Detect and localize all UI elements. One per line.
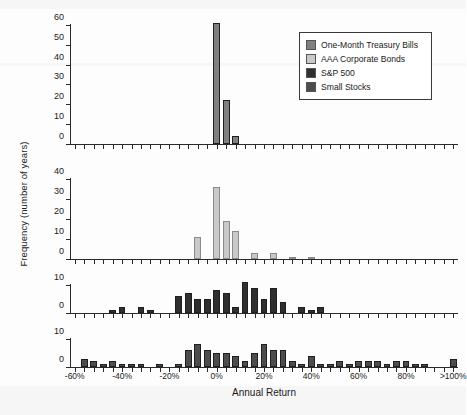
x-tick [330, 145, 331, 149]
x-tick [264, 260, 265, 264]
histogram-bar [251, 288, 258, 314]
histogram-bar [270, 288, 277, 314]
y-tick-label: 10 [54, 112, 64, 121]
x-tick [103, 260, 104, 264]
x-tick [311, 314, 312, 318]
histogram-bar [251, 353, 258, 367]
x-tick-label: 0% [211, 371, 223, 381]
x-tick [453, 260, 454, 264]
x-tick [150, 260, 151, 264]
x-tick [94, 260, 95, 264]
y-tick [66, 84, 70, 85]
legend-label: Small Stocks [321, 83, 371, 92]
x-tick [245, 260, 246, 264]
x-tick [150, 145, 151, 149]
y-tick-label: 0 [59, 247, 64, 256]
x-tick [378, 260, 379, 264]
histogram-bar [327, 364, 334, 367]
x-tick [425, 260, 426, 264]
histogram-bar [175, 364, 182, 367]
legend-swatch-icon [306, 68, 316, 78]
x-tick [349, 314, 350, 318]
legend-swatch-icon [306, 40, 316, 50]
x-tick [179, 260, 180, 264]
x-tick [113, 260, 114, 264]
histogram-bar [90, 361, 97, 367]
x-tick [103, 145, 104, 149]
histogram-bar [213, 187, 220, 259]
x-tick-label: -40% [112, 371, 132, 381]
y-tick-label: 10 [54, 227, 64, 236]
scan-band [0, 0, 466, 9]
histogram-bar [280, 350, 287, 367]
x-tick [321, 145, 322, 149]
histogram-bar [223, 353, 230, 367]
histogram-bar [317, 364, 324, 367]
x-tick [255, 314, 256, 318]
histogram-bar [308, 257, 315, 259]
x-tick [84, 260, 85, 264]
x-tick [226, 314, 227, 318]
legend-swatch-icon [306, 82, 316, 92]
x-tick [236, 260, 237, 264]
histogram-bar [346, 364, 353, 367]
histogram-bar [223, 293, 230, 313]
x-tick [283, 314, 284, 318]
histogram-bar [355, 361, 362, 367]
x-tick [160, 260, 161, 264]
x-tick [255, 260, 256, 264]
legend-item-one-month-treasury-bills: One-Month Treasury Bills [306, 38, 425, 52]
histogram-bar [421, 364, 428, 367]
histogram-bar [119, 364, 126, 367]
x-tick [141, 314, 142, 318]
histogram-bar [194, 344, 201, 367]
x-tick [245, 145, 246, 149]
bar-group [70, 333, 458, 367]
y-tick [66, 339, 70, 340]
y-tick [66, 25, 70, 26]
x-tick [340, 145, 341, 149]
y-tick-label: 20 [54, 92, 64, 101]
histogram-bar [336, 361, 343, 367]
histogram-bar [298, 364, 305, 367]
legend-swatch-icon [306, 54, 316, 64]
x-tick [330, 314, 331, 318]
y-tick [66, 45, 70, 46]
x-tick-group [70, 145, 458, 149]
histogram-bar [298, 307, 305, 313]
x-tick [160, 314, 161, 318]
y-tick [66, 179, 70, 180]
x-tick [217, 314, 218, 318]
x-tick [396, 314, 397, 318]
x-tick [273, 314, 274, 318]
histogram-bar [194, 237, 201, 259]
histogram-bar [147, 310, 154, 313]
x-tick [340, 260, 341, 264]
x-tick [425, 145, 426, 149]
x-tick [292, 145, 293, 149]
x-tick [321, 260, 322, 264]
x-tick [188, 145, 189, 149]
x-tick [311, 145, 312, 149]
plot-area: 010 [70, 280, 458, 314]
x-tick [198, 314, 199, 318]
legend-item-small-stocks: Small Stocks [306, 80, 425, 94]
x-tick-label: 40% [303, 371, 320, 381]
x-tick [387, 145, 388, 149]
x-tick [141, 145, 142, 149]
x-tick-label: 80% [397, 371, 414, 381]
y-tick [66, 104, 70, 105]
histogram-bar [261, 344, 268, 367]
histogram-bar [81, 359, 88, 368]
x-tick [150, 314, 151, 318]
x-tick [434, 314, 435, 318]
x-tick [311, 260, 312, 264]
y-tick-label: 10 [54, 273, 64, 282]
y-tick [66, 313, 70, 314]
legend: One-Month Treasury Bills AAA Corporate B… [299, 32, 432, 100]
x-tick [84, 314, 85, 318]
x-tick [368, 260, 369, 264]
histogram-bar [242, 282, 249, 313]
x-tick [406, 314, 407, 318]
y-tick [66, 65, 70, 66]
